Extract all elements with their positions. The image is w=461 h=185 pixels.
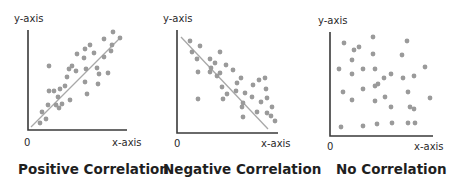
data-point — [63, 84, 68, 89]
data-point — [371, 35, 376, 40]
y-axis-label: y-axis — [163, 13, 192, 24]
data-point — [241, 101, 246, 106]
data-point — [373, 84, 378, 89]
data-point — [82, 56, 87, 61]
data-point — [375, 122, 380, 127]
axes — [330, 32, 433, 136]
data-point — [423, 65, 428, 70]
data-point — [60, 102, 65, 107]
data-point — [208, 70, 213, 75]
data-point — [390, 121, 395, 126]
data-point — [96, 82, 101, 87]
data-point — [352, 48, 357, 53]
data-point — [350, 58, 355, 63]
data-point — [361, 124, 366, 129]
data-point — [84, 67, 89, 72]
data-point — [255, 110, 260, 115]
data-point — [235, 81, 240, 86]
data-point — [52, 89, 57, 94]
data-point — [350, 72, 355, 77]
chart-title: No Correlation — [336, 161, 447, 177]
data-point — [406, 90, 411, 95]
data-point — [361, 67, 366, 72]
x-axis-label: x-axis — [261, 138, 291, 149]
data-point — [47, 64, 52, 69]
data-point — [243, 91, 248, 96]
positive-correlation-panel: y-axis 0 x-axis Positive Correlation — [14, 13, 169, 177]
data-point — [259, 100, 264, 105]
data-point — [337, 67, 342, 72]
x-axis-label: x-axis — [112, 137, 142, 148]
data-point — [273, 119, 278, 124]
data-point — [231, 68, 236, 73]
data-point — [83, 80, 88, 85]
data-point — [58, 87, 63, 92]
data-point — [75, 52, 80, 57]
data-point — [83, 47, 88, 52]
data-point — [190, 50, 195, 55]
data-point — [118, 36, 123, 41]
data-point — [109, 49, 114, 54]
data-point — [65, 75, 70, 80]
data-point — [40, 110, 45, 115]
data-point — [389, 72, 394, 77]
data-point — [225, 92, 230, 97]
data-point — [195, 57, 200, 62]
data-point — [208, 57, 213, 62]
data-point — [111, 30, 116, 35]
data-point — [371, 52, 376, 57]
data-point — [188, 39, 193, 44]
data-point — [400, 53, 405, 58]
data-point — [67, 67, 72, 72]
data-point — [265, 96, 270, 101]
data-point — [56, 95, 61, 100]
trend-line — [31, 38, 120, 127]
data-point — [88, 43, 93, 48]
data-point — [239, 76, 244, 81]
data-point — [401, 76, 406, 81]
chart-title: Positive Correlation — [18, 161, 169, 177]
data-point — [198, 44, 203, 49]
data-point — [412, 74, 417, 79]
data-point — [350, 98, 355, 103]
data-point — [85, 92, 90, 97]
data-point — [102, 55, 107, 60]
data-point — [92, 51, 97, 56]
data-point — [44, 117, 49, 122]
data-point — [408, 105, 413, 110]
data-point — [97, 72, 102, 77]
data-point — [389, 105, 394, 110]
data-point — [38, 121, 43, 126]
chart-title: Negative Correlation — [163, 161, 321, 177]
data-point — [54, 103, 59, 108]
data-point — [215, 74, 220, 79]
data-point — [241, 115, 246, 120]
data-point — [263, 76, 268, 81]
data-point — [251, 83, 256, 88]
data-point — [47, 89, 52, 94]
data-point — [196, 97, 201, 102]
data-point — [74, 69, 79, 74]
data-point — [213, 61, 218, 66]
correlation-charts: y-axis 0 x-axis Positive Correlation y-a… — [0, 0, 461, 185]
data-point — [373, 67, 378, 72]
data-point — [373, 99, 378, 104]
data-point — [220, 85, 225, 90]
data-point — [361, 87, 366, 92]
data-point — [405, 39, 410, 44]
data-point — [341, 90, 346, 95]
data-point — [196, 70, 201, 75]
negative-correlation-panel: y-axis 0 x-axis Negative Correlation — [163, 13, 321, 177]
data-point — [383, 95, 388, 100]
data-point — [95, 66, 100, 71]
data-point — [406, 121, 411, 126]
data-point — [68, 98, 73, 103]
no-correlation-panel: y-axis 0 x-axis No Correlation — [318, 15, 447, 177]
data-point — [221, 97, 226, 102]
data-point — [46, 103, 51, 108]
data-point — [106, 71, 111, 76]
data-point — [257, 78, 262, 83]
data-point — [250, 95, 255, 100]
data-point — [102, 37, 107, 42]
data-point — [209, 66, 214, 71]
